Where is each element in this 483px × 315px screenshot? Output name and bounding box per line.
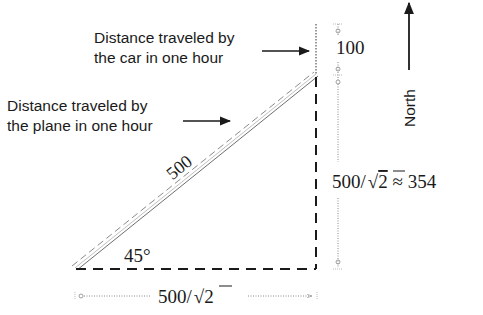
vector-triangle-diagram: Distance traveled by the car in one hour… (0, 0, 483, 315)
plane-distance-label: Distance traveled by the plane in one ho… (7, 97, 153, 134)
horizontal-leg-label: 500/√2 (158, 286, 232, 307)
angle-label: 45° (124, 245, 151, 266)
car-label-line1: Distance traveled by (94, 29, 235, 46)
car-distance-label: Distance traveled by the car in one hour (94, 29, 235, 66)
plane-label-line2: the plane in one hour (7, 117, 153, 134)
car-label-line2: the car in one hour (94, 49, 223, 66)
north-label: North (401, 89, 418, 127)
vertical-leg-label: 500/√2 ≈ 354 (332, 171, 437, 192)
plane-label-line1: Distance traveled by (7, 97, 148, 114)
svg-text:500/√2 ≈ 354: 500/√2 ≈ 354 (332, 171, 437, 192)
svg-text:500/√2: 500/√2 (158, 286, 214, 307)
car-distance-value: 100 (336, 37, 365, 58)
